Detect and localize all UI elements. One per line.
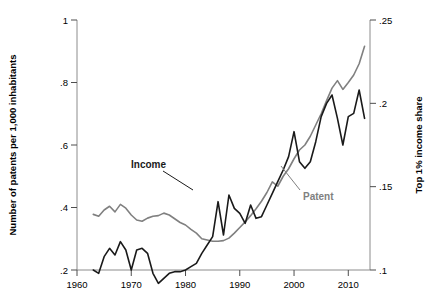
x-tick-label: 1990 <box>229 279 250 290</box>
x-tick-label: 1960 <box>66 279 87 290</box>
left-tick-label: .8 <box>60 77 68 88</box>
left-tick-label: .6 <box>60 140 68 151</box>
right-tick-label: .1 <box>379 265 387 276</box>
series-label-patent: Patent <box>303 191 334 202</box>
left-tick-label: .2 <box>60 265 68 276</box>
y-axis-label-right: Top 1% income share <box>413 97 424 194</box>
right-tick-label: .2 <box>379 98 387 109</box>
x-tick-label: 1980 <box>175 279 196 290</box>
x-axis-ticks: 196019701980199020002010 <box>66 270 358 290</box>
income-leader-line <box>163 171 193 190</box>
left-tick-label: .4 <box>60 202 68 213</box>
x-tick-label: 2000 <box>283 279 304 290</box>
left-tick-label: 1 <box>63 15 68 26</box>
right-tick-label: .25 <box>379 15 392 26</box>
dual-axis-line-chart: .2.4.6.81 .1.15.2.25 1960197019801990200… <box>0 0 432 305</box>
series-line-income <box>93 90 364 283</box>
patent-leader-line <box>281 166 300 190</box>
right-tick-label: .15 <box>379 181 392 192</box>
series-line-patent <box>93 46 364 241</box>
left-axis-ticks: .2.4.6.81 <box>60 15 77 276</box>
y-axis-label-left: Number of patents per 1,000 inhabitants <box>7 54 18 235</box>
x-tick-label: 1970 <box>121 279 142 290</box>
series-label-income: Income <box>131 159 166 170</box>
x-tick-label: 2010 <box>338 279 359 290</box>
right-axis-ticks: .1.15.2.25 <box>370 15 392 276</box>
chart-figure: .2.4.6.81 .1.15.2.25 1960197019801990200… <box>0 0 432 305</box>
